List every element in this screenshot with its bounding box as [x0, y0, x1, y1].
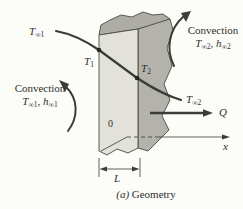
convection-left-block: Convection T∞1, h∞1: [8, 82, 72, 108]
t-infinity-2-sub: ∞2: [192, 98, 201, 107]
x-axis-base: x: [223, 140, 228, 152]
dimension-arrowhead-left: [100, 166, 108, 171]
convection-right-block: Convection T∞2, h∞2: [184, 24, 242, 50]
caption-text: Geometry: [132, 188, 176, 200]
convection-left-params: T∞1, h∞1: [8, 95, 72, 108]
convection-right-h-sub: ∞2: [222, 42, 231, 51]
caption-prefix: (a): [116, 188, 129, 200]
figure-caption: (a) Geometry: [96, 188, 196, 200]
convection-left-h-sub: ∞1: [49, 100, 58, 109]
convection-right-params: T∞2, h∞2: [184, 37, 242, 50]
t-infinity-1-sub: ∞1: [35, 30, 44, 39]
convection-left-t-sub: ∞1: [28, 100, 37, 109]
wall-front-face: [99, 29, 138, 155]
x-axis-arrowhead: [222, 134, 230, 139]
convection-right-title: Convection: [184, 24, 242, 37]
geometry-figure: T∞1 T1 T2 T∞2 Convection T∞1, h∞1 Convec…: [0, 0, 243, 209]
t1-sub: 1: [90, 60, 94, 69]
t-infinity-2-label: T∞2: [186, 93, 201, 105]
heat-arrowhead: [203, 109, 213, 117]
heat-base: Q: [219, 106, 227, 118]
dimension-arrowhead-right: [132, 166, 140, 171]
length-label: L: [114, 172, 120, 184]
t2-sub: 2: [147, 67, 151, 76]
t1-label: T1: [84, 55, 94, 67]
wall-side-face: [138, 19, 173, 151]
t-infinity-1-label: T∞1: [29, 25, 44, 37]
t2-label: T2: [141, 62, 151, 74]
heat-label: Q: [219, 106, 227, 118]
origin-label: 0: [108, 118, 113, 130]
t2-point: [135, 76, 140, 81]
length-base: L: [114, 172, 120, 184]
convection-right-t-sub: ∞2: [201, 42, 210, 51]
convection-left-title: Convection: [8, 82, 72, 95]
x-axis-label: x: [223, 140, 228, 152]
t1-point: [97, 48, 102, 53]
